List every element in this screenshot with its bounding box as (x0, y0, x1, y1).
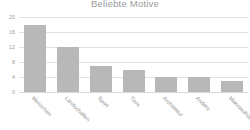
bar[interactable] (221, 81, 243, 92)
bar[interactable] (24, 25, 46, 93)
bar[interactable] (57, 47, 79, 92)
y-axis-tick-12: 12 (0, 44, 15, 50)
bar[interactable] (123, 70, 145, 93)
y-axis-tick-20: 20 (0, 14, 15, 20)
y-axis-tick-16: 16 (0, 29, 15, 35)
bar[interactable] (188, 77, 210, 92)
x-axis-labels: MenschenLandschaftenSportTiereArchitektu… (19, 92, 248, 130)
x-axis-tick-label: Menschen (31, 95, 53, 117)
x-axis-tick-label: Makroaufnahmen (227, 95, 250, 130)
bar[interactable] (90, 66, 112, 92)
x-axis-tick-label: Sport (97, 95, 111, 109)
x-axis-label-slot: Tiere (117, 92, 150, 130)
x-axis-label-slot: Architektur (150, 92, 183, 130)
x-axis-label-slot: Landschaften (52, 92, 85, 130)
gridline-12 (19, 47, 248, 48)
gridline-16 (19, 32, 248, 33)
x-axis-tick-label: Tiere (129, 95, 142, 108)
x-axis-label-slot: Makroaufnahmen (215, 92, 248, 130)
x-axis-tick-label: Architektur (162, 95, 185, 118)
gridline-20 (19, 17, 248, 18)
x-axis-label-slot: Andere (183, 92, 216, 130)
gridline-8 (19, 62, 248, 63)
bar-chart-figure: Beliebte Motive 201612840 MenschenLandsc… (0, 0, 250, 130)
y-axis-tick-4: 4 (0, 74, 15, 80)
y-axis-tick-8: 8 (0, 59, 15, 65)
y-axis-tick-0: 0 (0, 89, 15, 95)
bar[interactable] (155, 77, 177, 92)
chart-title: Beliebte Motive (0, 0, 250, 9)
plot-area: 201612840 (19, 17, 248, 92)
x-axis-tick-label: Andere (195, 95, 212, 112)
x-axis-label-slot: Menschen (19, 92, 52, 130)
x-axis-label-slot: Sport (84, 92, 117, 130)
